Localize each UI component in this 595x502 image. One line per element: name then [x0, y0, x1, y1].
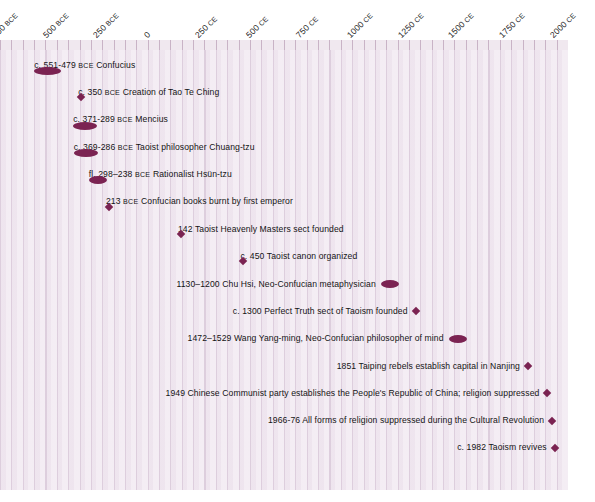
timeline-chart: 750 BCE500 BCE250 BCE0250 CE500 CE750 CE… — [0, 0, 595, 502]
timeline-event-label: 1949 Chinese Communist party establishes… — [166, 388, 540, 399]
timeline-event-date: c. 1982 — [457, 442, 486, 452]
timeline-axis-labels: 750 BCE500 BCE250 BCE0250 CE500 CE750 CE… — [0, 0, 595, 40]
timeline-point-marker[interactable] — [548, 416, 556, 424]
timeline-event-label: 213 BCE Confucian books burnt by first e… — [106, 196, 293, 208]
timeline-event-era: BCE — [118, 144, 134, 152]
timeline-event[interactable]: c. 1982 Taoism revives — [457, 438, 557, 456]
timeline-event[interactable]: c. 551-479 BCE Confucius — [34, 56, 135, 74]
timeline-event[interactable]: c. 1300 Perfect Truth sect of Taoism fou… — [233, 302, 419, 320]
timeline-event-description: Creation of Tao Te Ching — [120, 87, 219, 97]
timeline-event-date: 1130–1200 — [176, 279, 219, 289]
axis-tick-label: 500 CE — [243, 14, 269, 40]
timeline-point-marker[interactable] — [524, 362, 532, 370]
timeline-event-label: 1472–1529 Wang Yang-ming, Neo-Confucian … — [188, 333, 444, 344]
timeline-event-description: Wang Yang-ming, Neo-Confucian philosophe… — [231, 333, 443, 343]
timeline-event-description: All forms of religion suppressed during … — [300, 415, 544, 425]
timeline-point-marker[interactable] — [543, 389, 551, 397]
timeline-event-label: c. 450 Taoist canon organized — [240, 251, 357, 262]
timeline-event-description: Chinese Communist party establishes the … — [185, 388, 539, 398]
axis-tick-label: 1750 CE — [497, 10, 527, 40]
axis-tick-label: 250 CE — [193, 14, 219, 40]
axis-tick-era: CE — [462, 12, 476, 26]
timeline-event[interactable]: 1851 Taiping rebels establish capital in… — [337, 356, 531, 374]
timeline-event[interactable]: c. 371-289 BCE Mencius — [73, 111, 168, 129]
timeline-event-description: Taiping rebels establish capital in Nanj… — [356, 361, 520, 371]
timeline-range-marker[interactable] — [381, 280, 399, 288]
timeline-event-description: Mencius — [133, 114, 168, 124]
timeline-event-description: Taoist philosopher Chuang-tzu — [133, 142, 254, 152]
timeline-event-description: Rationalist Hsün-tzu — [150, 169, 231, 179]
timeline-event-era: BCE — [117, 116, 133, 124]
axis-tick-label: 1250 CE — [396, 10, 426, 40]
timeline-event[interactable]: 1966-76 All forms of religion suppressed… — [268, 411, 555, 429]
timeline-event-date: 1949 — [166, 388, 186, 398]
timeline-event-label: 1966-76 All forms of religion suppressed… — [268, 415, 544, 426]
timeline-event[interactable]: 1472–1529 Wang Yang-ming, Neo-Confucian … — [188, 329, 467, 347]
timeline-event[interactable]: c. 350 BCE Creation of Tao Te Ching — [78, 83, 219, 101]
timeline-event-era: BCE — [105, 89, 121, 97]
timeline-event-date: 1472–1529 — [188, 333, 232, 343]
timeline-event-era: BCE — [135, 171, 151, 179]
timeline-event-date: c. 1300 — [233, 306, 262, 316]
timeline-event-era: BCE — [78, 62, 94, 70]
timeline-event-label: 1130–1200 Chu Hsi, Neo-Confucian metaphy… — [176, 279, 375, 290]
axis-tick-label: 750 CE — [294, 14, 320, 40]
timeline-range-marker[interactable] — [73, 122, 97, 130]
timeline-event-label: c. 369-286 BCE Taoist philosopher Chuang… — [74, 142, 255, 154]
axis-tick-era: CE — [360, 12, 374, 26]
timeline-event-label: c. 1300 Perfect Truth sect of Taoism fou… — [233, 306, 408, 317]
timeline-range-marker[interactable] — [449, 335, 467, 343]
timeline-event-description: Confucian books burnt by first emperor — [139, 196, 293, 206]
timeline-event[interactable]: 213 BCE Confucian books burnt by first e… — [106, 193, 293, 211]
axis-tick-era: BCE — [103, 12, 120, 29]
axis-tick-label: 1000 CE — [345, 10, 375, 40]
timeline-event-description: Perfect Truth sect of Taoism founded — [262, 306, 408, 316]
timeline-event[interactable]: 1949 Chinese Communist party establishes… — [166, 384, 551, 402]
axis-tick-label: 750 BCE — [0, 10, 20, 40]
timeline-event[interactable]: c. 369-286 BCE Taoist philosopher Chuang… — [74, 138, 255, 156]
axis-tick-label: 500 BCE — [41, 10, 71, 40]
axis-tick-era: CE — [512, 12, 526, 26]
timeline-event-date: 1851 — [337, 361, 357, 371]
timeline-point-marker[interactable] — [411, 307, 419, 315]
axis-tick-label: 250 BCE — [91, 10, 121, 40]
timeline-event[interactable]: fl. 298–238 BCE Rationalist Hsün-tzu — [89, 165, 232, 183]
timeline-event-label: fl. 298–238 BCE Rationalist Hsün-tzu — [89, 169, 232, 181]
timeline-event-label: c. 350 BCE Creation of Tao Te Ching — [78, 87, 219, 99]
axis-tick-label: 2000 CE — [548, 10, 578, 40]
timeline-event-label: c. 1982 Taoism revives — [457, 442, 546, 453]
timeline-range-marker[interactable] — [34, 67, 61, 75]
axis-tick-value: 0 — [142, 29, 153, 40]
timeline-event-description: Chu Hsi, Neo-Confucian metaphysician — [220, 279, 376, 289]
timeline-event-label: 142 Taoist Heavenly Masters sect founded — [178, 224, 344, 235]
timeline-event-description: Taoist canon organized — [264, 251, 357, 261]
timeline-plot-area: c. 551-479 BCE Confuciusc. 350 BCE Creat… — [0, 50, 568, 490]
timeline-event[interactable]: 142 Taoist Heavenly Masters sect founded — [178, 220, 344, 238]
timeline-event-era: BCE — [123, 198, 139, 206]
axis-tick-era: BCE — [2, 12, 19, 29]
timeline-event-description: Taoism revives — [486, 442, 547, 452]
timeline-event-date: 1966-76 — [268, 415, 300, 425]
timeline-event-description: Confucius — [94, 60, 136, 70]
axis-tick-label: 1500 CE — [446, 10, 476, 40]
timeline-event-label: 1851 Taiping rebels establish capital in… — [337, 361, 520, 372]
timeline-range-marker[interactable] — [89, 176, 107, 184]
timeline-range-marker[interactable] — [74, 149, 98, 157]
timeline-event[interactable]: 1130–1200 Chu Hsi, Neo-Confucian metaphy… — [176, 274, 398, 292]
timeline-event[interactable]: c. 450 Taoist canon organized — [240, 247, 357, 265]
axis-tick-era: CE — [306, 15, 320, 29]
axis-tick-era: BCE — [53, 12, 70, 29]
timeline-event-description: Taoist Heavenly Masters sect founded — [193, 224, 344, 234]
timeline-point-marker[interactable] — [550, 444, 558, 452]
axis-tick-label: 0 — [142, 29, 153, 40]
